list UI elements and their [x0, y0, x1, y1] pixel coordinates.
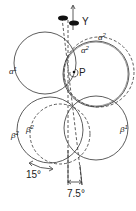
beta1-label: β1	[119, 124, 128, 134]
p-label: P	[79, 67, 86, 78]
rotation-angle-label: 15°	[26, 169, 41, 180]
beta1-circle	[64, 96, 128, 160]
marker-ellipse-1	[58, 15, 68, 20]
alpha2-inner-label: α2	[81, 45, 90, 55]
alpha1-label: α1	[9, 66, 17, 76]
beta2-inner-label: β2	[25, 124, 35, 134]
rotation-diagram: Y P α1 α2 α2 β2 β2 β1 15° 7.5°	[0, 0, 136, 211]
tilted-axis-line	[62, 18, 82, 185]
alpha2-outer-label: α2	[98, 32, 107, 42]
alpha2-circle	[63, 41, 129, 107]
marker-ellipse-2	[69, 20, 79, 25]
y-label: Y	[82, 16, 89, 27]
beta2-dashed-circle	[30, 104, 90, 164]
tilt-angle-label: 7.5°	[67, 188, 85, 199]
